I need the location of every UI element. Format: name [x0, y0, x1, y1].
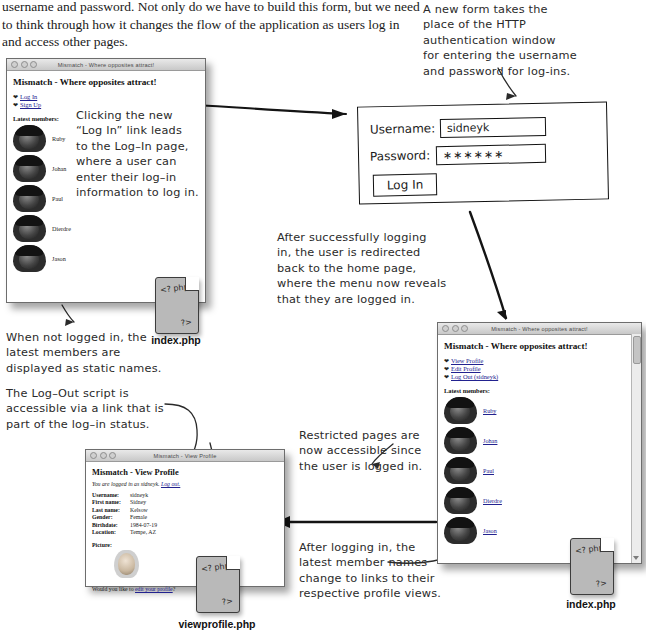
nav-link-label[interactable]: Edit Profile: [451, 365, 481, 373]
page-body: Mismatch - View Profile You are logged i…: [86, 462, 284, 597]
member-name-link[interactable]: Paul: [483, 467, 494, 474]
vertical-scrollbar[interactable]: [631, 334, 641, 563]
file-icon-index-php[interactable]: <? php ?>: [155, 277, 199, 334]
php-close-tag: ?>: [181, 317, 193, 327]
php-close-tag: ?>: [222, 596, 234, 606]
nav-link-label[interactable]: Sign Up: [20, 101, 41, 109]
password-input[interactable]: ∗∗∗∗∗∗: [436, 144, 546, 165]
field-value: 1984-07-19: [130, 522, 157, 529]
nav-link-label[interactable]: Log Out (sidneyk): [451, 373, 498, 381]
avatar: [444, 397, 477, 424]
avatar: [444, 487, 477, 514]
file-icon-index-php-2[interactable]: <? php ?>: [570, 538, 614, 595]
member-name-link[interactable]: Dierdre: [483, 497, 502, 504]
field-value: Female: [130, 514, 147, 521]
field-key: Birthdate:: [92, 522, 130, 529]
annotation-login-link: Clicking the new “Log In” link leads to …: [76, 108, 211, 200]
window-titlebar[interactable]: Mismatch - Where opposites attract!: [438, 323, 641, 335]
window-titlebar[interactable]: Mismatch - View Profile: [86, 450, 284, 462]
php-open-tag: <? php: [160, 282, 190, 294]
field-value: sidneyk: [130, 492, 148, 499]
log-out-link[interactable]: Log out.: [161, 481, 180, 487]
field-value: Sidney: [130, 499, 146, 506]
edit-profile-link[interactable]: edit your profile: [135, 586, 173, 592]
avatar: [444, 517, 477, 544]
heart-icon: ❤: [444, 366, 449, 372]
edit-prompt-suffix: ?: [173, 586, 176, 592]
profile-picture: [114, 550, 139, 578]
login-submit-button[interactable]: Log In: [373, 173, 437, 196]
nav-link-label[interactable]: Log In: [20, 93, 37, 101]
edit-profile-prompt: Would you like to edit your profile?: [92, 586, 278, 592]
member-name: Paul: [52, 195, 63, 202]
annotation-after-login: After successfully logging in, the user …: [277, 230, 447, 307]
member-name: Ruby: [52, 135, 65, 142]
member-name-link[interactable]: Ruby: [483, 407, 496, 414]
login-status-text: You are logged in as sidneyk.: [92, 481, 161, 487]
member-name: Jason: [52, 255, 66, 262]
table-row: First name: Sidney: [92, 499, 278, 506]
member-name-link[interactable]: Jason: [483, 527, 497, 534]
window-title: Mismatch - Where opposites attract!: [7, 62, 205, 68]
window-title: Mismatch - Where opposites attract!: [438, 326, 641, 332]
nav-item-view-profile[interactable]: ❤ View Profile: [444, 357, 627, 365]
nav-menu: ❤ Log In ❤ Sign Up: [13, 93, 199, 109]
avatar: [444, 427, 477, 454]
list-item[interactable]: Paul: [444, 457, 627, 484]
table-row: Gender: Female: [92, 514, 278, 521]
page-title: Mismatch - View Profile: [92, 468, 278, 477]
php-open-tag: <? php: [575, 543, 605, 555]
list-item: Jason: [13, 245, 199, 272]
member-name-link[interactable]: Johan: [483, 437, 497, 444]
php-file-icon: <? php ?>: [155, 277, 199, 334]
site-heading: Mismatch - Where opposites attract!: [444, 341, 627, 351]
login-status: You are logged in as sidneyk. Log out.: [92, 481, 278, 487]
heart-icon: ❤: [444, 374, 449, 380]
annotation-logout-script: The Log–Out script is accessible via a l…: [6, 386, 186, 432]
field-key: First name:: [92, 499, 130, 506]
heart-icon: ❤: [13, 102, 18, 108]
username-label: Username:: [370, 121, 435, 136]
field-key: Username:: [92, 492, 130, 499]
avatar: [13, 185, 46, 212]
nav-item-log-out[interactable]: ❤ Log Out (sidneyk): [444, 373, 627, 381]
login-form[interactable]: Username: sidneyk Password: ∗∗∗∗∗∗ Log I…: [358, 104, 608, 202]
scroll-down-arrow-icon[interactable]: [633, 556, 639, 560]
annotation-restricted-pages: Restricted pages are now accessible sinc…: [299, 428, 459, 474]
file-icon-viewprofile-php[interactable]: <? php ?>: [196, 556, 240, 613]
field-key: Last name:: [92, 507, 130, 514]
browser-window-view-profile[interactable]: Mismatch - View Profile Mismatch - View …: [85, 449, 285, 587]
intro-paragraph: username and password. Not only do we ha…: [2, 0, 422, 51]
table-row: Last name: Kelsow: [92, 507, 278, 514]
browser-window-logged-in[interactable]: Mismatch - Where opposites attract! Mism…: [437, 322, 642, 564]
field-key: Gender:: [92, 514, 130, 521]
nav-item-edit-profile[interactable]: ❤ Edit Profile: [444, 365, 627, 373]
table-row: Birthdate: 1984-07-19: [92, 522, 278, 529]
window-titlebar[interactable]: Mismatch - Where opposites attract!: [7, 59, 205, 71]
avatar: [13, 245, 46, 272]
nav-item-log-in[interactable]: ❤ Log In: [13, 93, 199, 101]
table-row: Location: Tempe, AZ: [92, 529, 278, 536]
list-item[interactable]: Johan: [444, 427, 627, 454]
nav-menu: ❤ View Profile ❤ Edit Profile ❤ Log Out …: [444, 357, 627, 381]
site-heading: Mismatch - Where opposites attract!: [13, 77, 199, 87]
table-row: Username: sidneyk: [92, 492, 278, 499]
username-input[interactable]: sidneyk: [440, 117, 546, 138]
avatar: [13, 125, 46, 152]
scrollbar-thumb[interactable]: [633, 336, 641, 364]
field-key: Location:: [92, 529, 130, 536]
member-name: Dierdre: [52, 225, 71, 232]
latest-members-label: Latest members:: [444, 387, 627, 394]
page-body: Mismatch - Where opposites attract! ❤ Vi…: [438, 335, 641, 552]
nav-link-label[interactable]: View Profile: [451, 357, 483, 365]
list-item[interactable]: Dierdre: [444, 487, 627, 514]
field-value: Tempe, AZ: [130, 529, 156, 536]
field-value: Kelsow: [130, 507, 148, 514]
list-item[interactable]: Ruby: [444, 397, 627, 424]
php-close-tag: ?>: [596, 578, 608, 588]
heart-icon: ❤: [444, 358, 449, 364]
file-label-index-php-2: index.php: [536, 598, 646, 610]
edit-prompt-prefix: Would you like to: [92, 586, 135, 592]
avatar: [13, 215, 46, 242]
heart-icon: ❤: [13, 94, 18, 100]
